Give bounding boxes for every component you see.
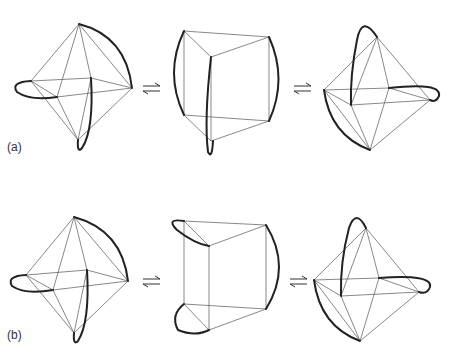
octahedron-b-right — [314, 218, 430, 341]
equilibrium-arrow-b2 — [290, 276, 307, 287]
octahedron-b-left — [11, 217, 128, 342]
equilibrium-arrow-a1 — [143, 83, 160, 94]
diagram-canvas — [0, 0, 454, 360]
row-label-a: (a) — [7, 140, 22, 154]
equilibrium-arrow-a2 — [294, 83, 311, 94]
row-label-b: (b) — [7, 328, 22, 342]
trigonal-prism-b — [172, 220, 279, 333]
equilibrium-arrow-b1 — [143, 276, 160, 287]
octahedron-a-left — [15, 24, 132, 150]
trigonal-prism-a — [174, 31, 279, 154]
octahedron-a-right — [324, 26, 439, 150]
